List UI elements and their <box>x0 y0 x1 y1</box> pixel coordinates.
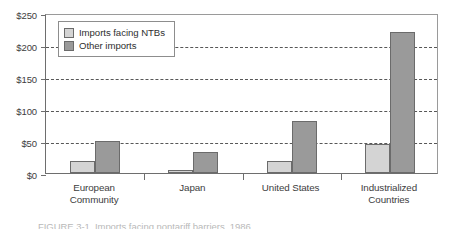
legend-swatch-dark-icon <box>64 41 74 51</box>
y-axis-label: $0 <box>27 170 37 181</box>
bar-imports-facing-ntbs <box>267 161 292 173</box>
x-axis-category-label: IndustrializedCountries <box>340 182 438 205</box>
x-axis-category-label-line: Japan <box>143 182 241 194</box>
x-axis-category-label-line: Industrialized <box>340 182 438 194</box>
x-axis-category-label-line: European <box>45 182 143 194</box>
bar-other-imports <box>193 152 218 173</box>
bar-other-imports <box>292 121 317 173</box>
legend-swatch-light-icon <box>64 28 74 38</box>
y-axis-label: $50 <box>21 138 37 149</box>
x-axis-category-label: EuropeanCommunity <box>45 182 143 205</box>
y-axis-tick <box>41 175 46 176</box>
bar-other-imports <box>390 32 415 173</box>
legend-label: Other imports <box>79 40 136 51</box>
chart-legend: Imports facing NTBs Other imports <box>58 21 175 57</box>
bar-other-imports <box>95 141 120 173</box>
bar-imports-facing-ntbs <box>168 170 193 173</box>
x-axis-category-label-line: Countries <box>340 194 438 206</box>
x-axis-category-label: Japan <box>143 182 241 194</box>
y-axis-label: $100 <box>16 106 37 117</box>
x-axis-tick <box>341 173 342 180</box>
x-axis-category-label-line: United States <box>242 182 340 194</box>
figure-container: $0$50$100$150$200$250 Imports facing NTB… <box>0 0 451 229</box>
legend-item-other-imports: Other imports <box>64 39 165 52</box>
x-axis-tick <box>144 173 145 180</box>
y-axis-label: $200 <box>16 42 37 53</box>
x-axis-category-label: United States <box>242 182 340 194</box>
legend-label: Imports facing NTBs <box>79 27 165 38</box>
chart-plot-area: $0$50$100$150$200$250 Imports facing NTB… <box>45 14 438 174</box>
x-axis-category-label-line: Community <box>45 194 143 206</box>
y-axis-label: $150 <box>16 74 37 85</box>
figure-caption: FIGURE 3-1. Imports facing nontariff bar… <box>38 221 251 229</box>
y-axis-label: $250 <box>16 10 37 21</box>
legend-item-imports-facing-ntbs: Imports facing NTBs <box>64 26 165 39</box>
bar-imports-facing-ntbs <box>70 161 95 173</box>
bar-imports-facing-ntbs <box>365 144 390 173</box>
x-axis-tick <box>243 173 244 180</box>
